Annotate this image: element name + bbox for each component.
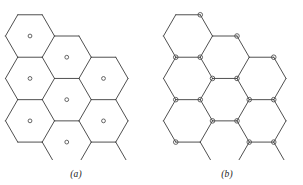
hex-edge bbox=[42, 15, 54, 36]
hex-edge bbox=[274, 78, 286, 99]
hex-edge bbox=[274, 57, 286, 78]
hex-edge bbox=[200, 78, 212, 99]
hex-edge bbox=[200, 57, 212, 78]
hex-edge bbox=[274, 100, 286, 121]
hex-edge bbox=[200, 142, 212, 160]
hex-edge bbox=[200, 121, 212, 142]
lattice-site-circle bbox=[102, 119, 106, 123]
hex-edge bbox=[164, 78, 176, 99]
lattice-site-circle bbox=[65, 140, 69, 144]
hex-edge bbox=[116, 142, 128, 160]
lattice-site-circle bbox=[102, 77, 106, 81]
hex-edge bbox=[6, 100, 18, 121]
hex-edge bbox=[79, 78, 91, 99]
hex-edge bbox=[237, 121, 249, 142]
hex-edge bbox=[237, 142, 249, 160]
hex-edge bbox=[164, 57, 176, 78]
hex-edge bbox=[42, 121, 54, 142]
panel-a-caption: (a) bbox=[0, 169, 152, 179]
hex-edge bbox=[79, 36, 91, 57]
hex-edge bbox=[6, 36, 18, 57]
hex-edge bbox=[42, 100, 54, 121]
hex-edge bbox=[79, 57, 91, 78]
hex-edge bbox=[237, 57, 249, 78]
hex-edge bbox=[42, 78, 54, 99]
hex-edge bbox=[42, 36, 54, 57]
hex-edge bbox=[79, 142, 91, 160]
lattice-site-circle bbox=[28, 34, 32, 38]
hex-edge bbox=[116, 100, 128, 121]
hex-edge bbox=[164, 121, 176, 142]
hex-edge bbox=[274, 142, 286, 160]
hex-edge bbox=[6, 57, 18, 78]
hex-edge bbox=[200, 15, 212, 36]
hex-edge bbox=[6, 15, 18, 36]
hexagonal-lattice-centers bbox=[0, 0, 152, 160]
hex-edge bbox=[42, 142, 54, 160]
hex-edge bbox=[164, 36, 176, 57]
hex-edge bbox=[200, 36, 212, 57]
panel-b: (b) bbox=[151, 0, 303, 185]
hex-edge bbox=[6, 121, 18, 142]
hex-edge bbox=[200, 100, 212, 121]
hex-edge bbox=[164, 15, 176, 36]
hex-edge bbox=[79, 121, 91, 142]
lattice-site-circle bbox=[65, 55, 69, 59]
panel-b-caption: (b) bbox=[151, 169, 303, 179]
hex-edge bbox=[6, 78, 18, 99]
hex-edge bbox=[237, 100, 249, 121]
hex-edge bbox=[237, 78, 249, 99]
figure-root: (a) (b) bbox=[0, 0, 303, 185]
lattice-site-circle bbox=[65, 98, 69, 102]
hex-edge bbox=[116, 78, 128, 99]
hex-edge bbox=[42, 57, 54, 78]
hex-edge bbox=[274, 121, 286, 142]
panel-a: (a) bbox=[0, 0, 152, 185]
hex-edge bbox=[164, 100, 176, 121]
hex-edge bbox=[116, 57, 128, 78]
hexagonal-lattice-vertices bbox=[151, 0, 303, 160]
lattice-site-circle bbox=[28, 119, 32, 123]
hex-edge bbox=[237, 36, 249, 57]
hex-edge bbox=[79, 100, 91, 121]
hex-edge bbox=[116, 121, 128, 142]
lattice-site-circle bbox=[28, 77, 32, 81]
